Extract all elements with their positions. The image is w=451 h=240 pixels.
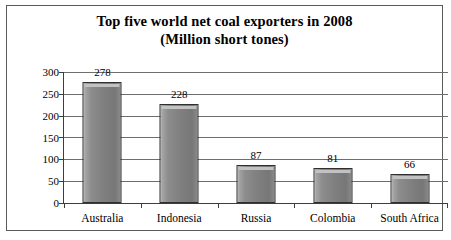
bar-value-label: 66	[404, 159, 415, 170]
bar-value-label: 87	[250, 150, 261, 161]
category-tick	[447, 203, 448, 208]
category-axis: Australia Indonesia Russia Colombia Sout…	[64, 203, 448, 233]
y-tick-label: 300	[29, 67, 59, 78]
chart-title-line1: Top five world net coal exporters in 200…	[96, 13, 352, 29]
bar-value-label: 81	[327, 153, 338, 164]
y-tick-label: 0	[29, 198, 59, 209]
bar-slot-colombia: 81	[294, 72, 371, 203]
category-tick	[64, 203, 65, 208]
category-tick	[294, 203, 295, 208]
bar-highlight	[392, 176, 427, 179]
category-label-colombia: Colombia	[294, 212, 371, 225]
bar-highlight	[162, 106, 197, 109]
y-tick-label: 200	[29, 111, 59, 122]
bar-highlight	[85, 84, 120, 87]
y-tick-label: 50	[29, 176, 59, 187]
plot-area: 278 228 87 81 66	[64, 72, 448, 203]
bar-value-label: 278	[94, 67, 111, 78]
bar-indonesia[interactable]	[160, 104, 199, 204]
category-tick	[371, 203, 372, 208]
bar-slot-russia: 87	[218, 72, 295, 203]
category-label-indonesia: Indonesia	[141, 212, 218, 225]
bar-australia[interactable]	[83, 82, 122, 203]
bar-slot-australia: 278	[64, 72, 141, 203]
chart-title: Top five world net coal exporters in 200…	[7, 12, 442, 48]
category-label-south-africa: South Africa	[371, 212, 448, 225]
bar-slot-indonesia: 228	[141, 72, 218, 203]
y-axis-tick-labels: 300 250 200 150 100 50 0	[23, 72, 59, 203]
bar-highlight	[315, 170, 350, 173]
category-label-russia: Russia	[218, 212, 295, 225]
bar-south-africa[interactable]	[390, 174, 429, 203]
bar-value-label: 228	[171, 89, 188, 100]
category-label-australia: Australia	[64, 212, 141, 225]
bar-highlight	[238, 167, 273, 170]
category-tick	[218, 203, 219, 208]
y-tick-label: 100	[29, 154, 59, 165]
bar-slot-south-africa: 66	[371, 72, 448, 203]
bar-russia[interactable]	[236, 165, 275, 203]
bar-colombia[interactable]	[313, 168, 352, 203]
y-tick-label: 150	[29, 133, 59, 144]
category-tick	[141, 203, 142, 208]
chart-frame: Top five world net coal exporters in 200…	[6, 5, 443, 231]
y-tick-label: 250	[29, 89, 59, 100]
chart-title-line2: (Million short tones)	[7, 30, 442, 48]
